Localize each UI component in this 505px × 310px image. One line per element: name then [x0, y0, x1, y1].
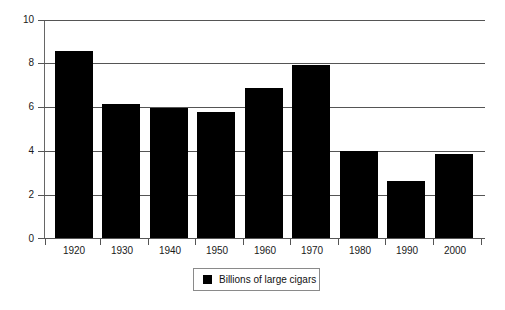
x-axis-tick-label-1940: 1940: [147, 246, 193, 256]
bar-1930: [102, 104, 140, 238]
x-axis-tick-label-1920: 1920: [51, 246, 97, 256]
x-axis-tick-mark-9: [481, 239, 482, 245]
y-axis-tick-label-0: 0: [8, 234, 34, 244]
x-axis-tick-mark-2: [148, 239, 149, 245]
x-axis-tick-label-1950: 1950: [194, 246, 240, 256]
gridline-0-baseline: [44, 238, 485, 239]
x-axis-tick-mark-4: [243, 239, 244, 245]
x-axis-tick-mark-5: [290, 239, 291, 245]
bar-1960: [245, 88, 283, 238]
x-axis-tick-mark-3: [195, 239, 196, 245]
bar-1940: [150, 108, 188, 238]
y-axis-tick-label-4: 4: [8, 146, 34, 156]
x-axis-tick-label-1970: 1970: [289, 246, 335, 256]
bar-1990: [387, 181, 425, 238]
x-axis-tick-label-1960: 1960: [242, 246, 288, 256]
bar-1950: [197, 112, 235, 238]
y-axis-tick-label-10: 10: [8, 15, 34, 25]
x-axis-tick-mark-6: [338, 239, 339, 245]
y-axis-tick-label-2: 2: [8, 190, 34, 200]
bar-2000: [435, 154, 473, 238]
gridline-8: [44, 63, 485, 64]
x-axis-tick-mark-1: [100, 239, 101, 245]
x-axis-tick-label-1980: 1980: [337, 246, 383, 256]
x-axis-tick-label-2000: 2000: [432, 246, 478, 256]
bar-1920: [55, 51, 93, 238]
y-axis-tick-label-8: 8: [8, 58, 34, 68]
x-axis-tick-mark-0: [45, 239, 46, 245]
x-axis-tick-label-1990: 1990: [384, 246, 430, 256]
y-axis-tick-label-6: 6: [8, 102, 34, 112]
legend-entry-label: Billions of large cigars: [219, 275, 316, 285]
bar-1980: [340, 151, 378, 238]
x-axis-tick-mark-7: [385, 239, 386, 245]
plot-area: [44, 20, 485, 238]
bar-1970: [292, 65, 330, 238]
bar-chart-figure: 10 8 6 4 2 0 19: [0, 0, 505, 310]
legend-swatch-icon: [203, 275, 212, 284]
x-axis-tick-label-1930: 1930: [99, 246, 145, 256]
x-axis-tick-mark-8: [433, 239, 434, 245]
gridline-10: [44, 20, 485, 21]
chart-legend: Billions of large cigars: [193, 268, 320, 291]
